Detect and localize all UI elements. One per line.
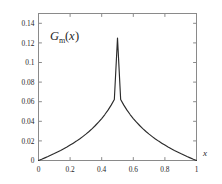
y-tick-label: 0.08 — [22, 78, 35, 87]
x-tick-label: 0 — [37, 165, 41, 174]
chart-figure: 00.20.40.60.81 00.020.040.060.080.10.120… — [0, 0, 222, 184]
y-tick-label: 0 — [31, 156, 35, 165]
y-tick-label: 0.1 — [25, 58, 35, 67]
annotation-close-paren: ) — [75, 29, 79, 43]
annotation-variable: x — [68, 29, 75, 43]
x-tick-label: 0.8 — [160, 165, 170, 174]
curve-annotation-label: G m ( x ) — [50, 29, 79, 45]
y-tick-label: 0.04 — [22, 117, 35, 126]
y-tick-label: 0.02 — [22, 137, 35, 146]
y-tick-label: 0.06 — [22, 97, 35, 106]
x-tick-label: 0.4 — [97, 165, 107, 174]
annotation-base-symbol: G — [50, 29, 59, 43]
plot-area: 00.20.40.60.81 00.020.040.060.080.10.120… — [0, 0, 222, 184]
y-tick-label: 0.14 — [22, 19, 35, 28]
y-tick-label: 0.12 — [22, 39, 35, 48]
x-tick-label: 1 — [195, 165, 199, 174]
x-axis-label: x — [202, 148, 207, 158]
x-tick-label: 0.2 — [65, 165, 75, 174]
x-tick-label: 0.6 — [129, 165, 139, 174]
